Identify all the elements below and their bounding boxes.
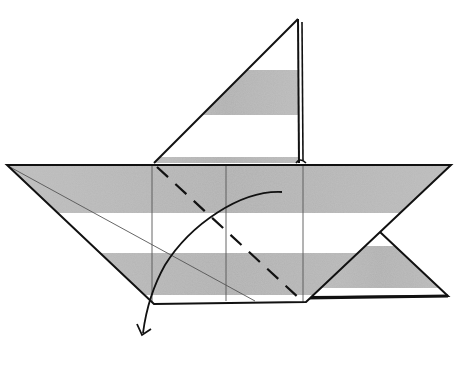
upper-flap xyxy=(140,19,310,165)
origami-diagram xyxy=(0,0,462,367)
